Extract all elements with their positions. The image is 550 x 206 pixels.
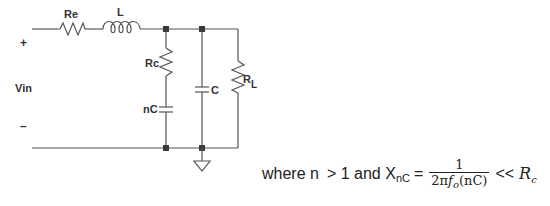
formula-relation: << [495,165,514,183]
label-l: L [117,6,124,18]
formula-x-sub: nC [396,172,410,184]
condition-formula: where n > 1 and X nC = 1 2πfo(nC) << Rc [262,157,537,190]
branch-rc-nc: Rc nC [143,29,173,148]
label-rl: RL [243,73,257,90]
label-nc: nC [143,103,158,115]
junction-node [163,26,169,32]
formula-prefix: where n [262,165,319,183]
plus-terminal: + [20,36,27,50]
inductor-l: L [103,6,140,33]
fraction: 1 2πfo(nC) [429,157,489,190]
label-c: C [211,84,219,96]
label-vin: Vin [15,82,32,94]
minus-terminal: – [20,119,27,133]
formula-rhs: Rc [519,164,537,183]
resistor-re: Re [57,8,85,35]
junction-node [199,26,205,32]
branch-c: C [195,29,219,148]
label-rc: Rc [145,57,159,69]
circuit-schematic: Re L Rc nC C RL + [0,0,300,206]
formula-equals: = [414,165,423,183]
label-re: Re [64,8,78,20]
fraction-denominator: 2πfo(nC) [429,173,489,190]
fraction-numerator: 1 [451,157,467,172]
ground-icon [194,148,210,171]
formula-condition: > 1 and X [327,165,396,183]
junction-node [163,145,169,151]
resistor-rl: RL [232,29,257,148]
